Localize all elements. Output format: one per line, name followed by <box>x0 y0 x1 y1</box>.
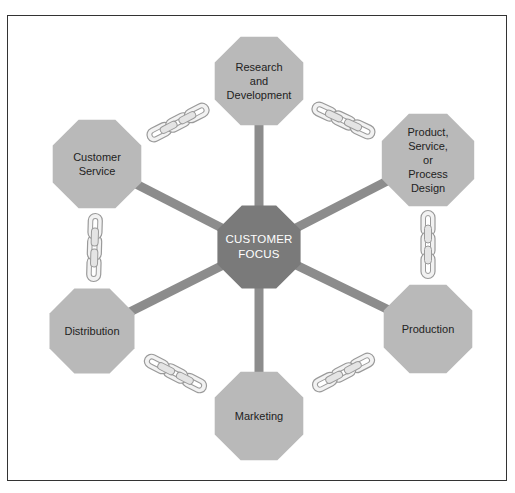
chain-link-0 <box>310 100 378 141</box>
chain-link-2 <box>310 351 377 395</box>
chain-link-4 <box>86 213 102 281</box>
chain-link-5 <box>145 101 212 144</box>
label-marketing: Marketing <box>211 368 307 464</box>
chain-link-3 <box>142 352 209 395</box>
chain-link-1 <box>421 211 435 279</box>
label-product-design: Product, Service, or Process Design <box>378 110 478 210</box>
label-customer-service: Customer Service <box>49 116 145 212</box>
label-production: Production <box>380 281 476 377</box>
label-customer-focus: CUSTOMER FOCUS <box>214 202 304 292</box>
label-distribution: Distribution <box>46 285 138 377</box>
label-research: Research and Development <box>211 33 307 129</box>
